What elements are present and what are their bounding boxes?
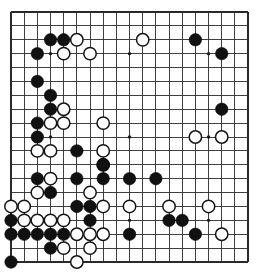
black-stone[interactable] [71, 200, 83, 212]
black-stone[interactable] [44, 89, 56, 101]
black-stone[interactable] [97, 159, 109, 171]
black-stone[interactable] [44, 103, 56, 115]
white-stone[interactable] [97, 228, 109, 240]
white-stone[interactable] [189, 131, 201, 143]
white-stone[interactable] [202, 200, 214, 212]
black-stone[interactable] [71, 145, 83, 157]
black-stone[interactable] [5, 228, 17, 240]
black-stone[interactable] [57, 34, 69, 46]
white-stone[interactable] [57, 117, 69, 129]
go-board[interactable] [0, 0, 265, 280]
white-stone[interactable] [31, 186, 43, 198]
white-stone[interactable] [97, 117, 109, 129]
white-stone[interactable] [84, 47, 96, 59]
white-stone[interactable] [123, 200, 135, 212]
black-stone[interactable] [31, 75, 43, 87]
star-point [128, 135, 131, 138]
black-stone[interactable] [31, 172, 43, 184]
black-stone[interactable] [44, 242, 56, 254]
black-stone[interactable] [216, 103, 228, 115]
star-point [207, 219, 210, 222]
white-stone[interactable] [18, 214, 30, 226]
white-stone[interactable] [84, 228, 96, 240]
white-stone[interactable] [57, 214, 69, 226]
white-stone[interactable] [71, 228, 83, 240]
black-stone[interactable] [123, 228, 135, 240]
star-point [49, 135, 52, 138]
black-stone[interactable] [57, 228, 69, 240]
black-stone[interactable] [123, 172, 135, 184]
black-stone[interactable] [31, 228, 43, 240]
white-stone[interactable] [44, 117, 56, 129]
white-stone[interactable] [5, 200, 17, 212]
black-stone[interactable] [163, 214, 175, 226]
white-stone[interactable] [31, 145, 43, 157]
black-stone[interactable] [176, 214, 188, 226]
black-stone[interactable] [216, 47, 228, 59]
black-stone[interactable] [5, 214, 17, 226]
black-stone[interactable] [31, 131, 43, 143]
black-stone[interactable] [84, 200, 96, 212]
white-stone[interactable] [216, 131, 228, 143]
white-stone[interactable] [44, 172, 56, 184]
star-point [207, 135, 210, 138]
black-stone[interactable] [84, 214, 96, 226]
black-stone[interactable] [189, 228, 201, 240]
white-stone[interactable] [84, 242, 96, 254]
black-stone[interactable] [189, 34, 201, 46]
go-diagram-container [0, 0, 265, 280]
white-stone[interactable] [57, 47, 69, 59]
white-stone[interactable] [57, 242, 69, 254]
black-stone[interactable] [44, 34, 56, 46]
white-stone[interactable] [137, 34, 149, 46]
white-stone[interactable] [44, 214, 56, 226]
white-stone[interactable] [71, 256, 83, 268]
white-stone[interactable] [84, 186, 96, 198]
white-stone[interactable] [97, 145, 109, 157]
white-stone[interactable] [44, 145, 56, 157]
white-stone[interactable] [71, 34, 83, 46]
black-stone[interactable] [150, 172, 162, 184]
black-stone[interactable] [97, 172, 109, 184]
star-point [128, 219, 131, 222]
black-stone[interactable] [44, 186, 56, 198]
black-stone[interactable] [31, 47, 43, 59]
white-stone[interactable] [97, 200, 109, 212]
star-point [207, 52, 210, 55]
black-stone[interactable] [18, 228, 30, 240]
white-stone[interactable] [216, 228, 228, 240]
black-stone[interactable] [44, 228, 56, 240]
white-stone[interactable] [163, 200, 175, 212]
white-stone[interactable] [31, 214, 43, 226]
white-stone[interactable] [18, 200, 30, 212]
black-stone[interactable] [5, 256, 17, 268]
black-stone[interactable] [71, 172, 83, 184]
star-point [49, 52, 52, 55]
black-stone[interactable] [31, 117, 43, 129]
white-stone[interactable] [57, 103, 69, 115]
star-point [128, 52, 131, 55]
